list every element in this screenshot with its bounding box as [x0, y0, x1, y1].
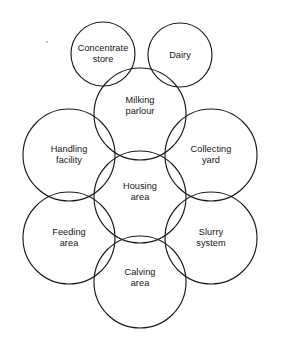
circle-feeding-area[interactable]	[23, 192, 115, 284]
circle-calving-area[interactable]	[94, 236, 186, 328]
circle-housing-area[interactable]	[94, 151, 186, 243]
circle-slurry-system[interactable]	[165, 192, 257, 284]
scan-speck	[46, 41, 48, 43]
circle-milking-parlour[interactable]	[94, 68, 186, 160]
circle-concentrate-store[interactable]	[71, 22, 135, 86]
circle-dairy[interactable]	[148, 23, 212, 87]
circle-collecting-yard[interactable]	[165, 109, 257, 201]
circle-handling-facility[interactable]	[23, 109, 115, 201]
venn-circles-canvas	[0, 0, 282, 351]
venn-diagram: Concentrate store Dairy Milking parlour …	[0, 0, 282, 351]
